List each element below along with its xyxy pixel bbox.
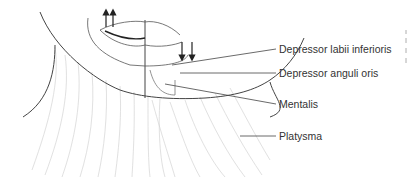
label-mentalis: Mentalis	[279, 98, 318, 110]
label-depressor-anguli-oris: Depressor anguli oris	[279, 67, 378, 79]
arrows	[106, 12, 192, 58]
mouth	[88, 18, 188, 95]
platysma-shading	[32, 47, 270, 177]
leader-lines	[165, 49, 276, 136]
label-depressor-labii-inferioris: Depressor labii inferioris	[279, 43, 392, 55]
label-platysma: Platysma	[279, 130, 322, 142]
anatomy-illustration	[0, 0, 408, 177]
